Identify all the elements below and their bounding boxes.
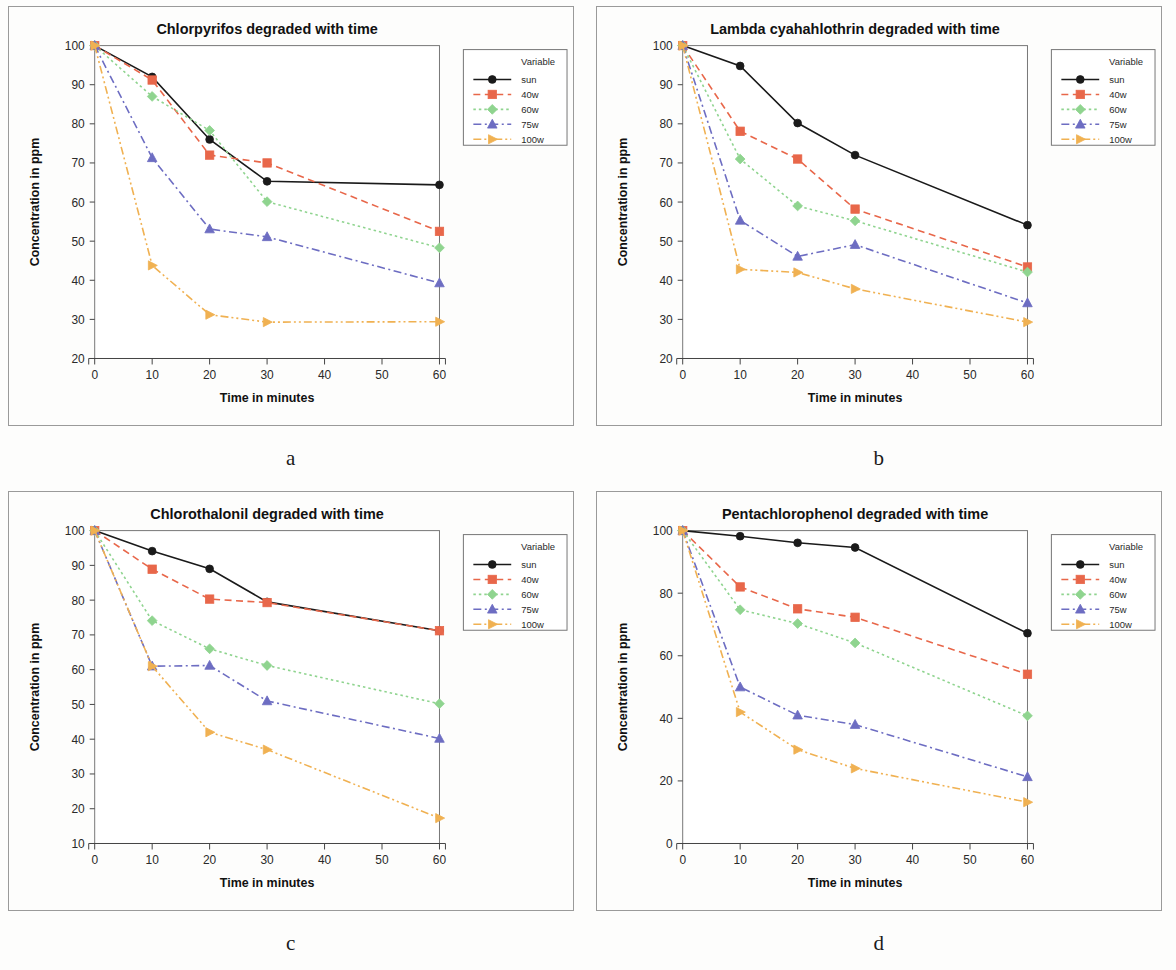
legend-label-60w: 60w: [1109, 104, 1127, 115]
data-point-sun: [851, 544, 859, 552]
legend-label-100w: 100w: [1109, 134, 1132, 145]
y-tick-label: 20: [659, 774, 673, 788]
data-point-40w: [205, 595, 213, 603]
legend-title: Variable: [521, 56, 555, 67]
x-tick-label: 30: [848, 853, 862, 867]
legend-label-sun: sun: [1109, 74, 1124, 85]
plot-area: [683, 531, 1028, 844]
x-tick-label: 60: [433, 368, 447, 382]
y-tick-label: 100: [653, 524, 673, 538]
y-tick-label: 100: [65, 39, 85, 53]
data-point-40w: [148, 76, 156, 84]
data-point-40w: [793, 155, 801, 163]
y-tick-label: 30: [659, 313, 673, 327]
data-point-40w: [736, 583, 744, 591]
legend-marker-sun: [1076, 561, 1084, 569]
y-tick-label: 80: [659, 117, 673, 131]
legend-label-100w: 100w: [1109, 619, 1132, 630]
y-tick-label: 50: [659, 235, 673, 249]
legend-label-60w: 60w: [521, 104, 539, 115]
legend-marker-40w: [1076, 90, 1084, 98]
x-tick-label: 60: [1021, 853, 1035, 867]
legend-label-60w: 60w: [1109, 589, 1127, 600]
legend-label-40w: 40w: [1109, 574, 1127, 585]
y-tick-label: 70: [71, 156, 85, 170]
y-tick-label: 80: [659, 587, 673, 601]
figure-grid: Chlorpyrifos degraded with time203040506…: [0, 0, 1176, 970]
chart-title: Lambda cyahahlothrin degraded with time: [710, 21, 1000, 37]
x-tick-label: 50: [375, 853, 389, 867]
figure-panel-a: Chlorpyrifos degraded with time203040506…: [0, 0, 588, 485]
legend-label-100w: 100w: [521, 134, 544, 145]
legend-label-75w: 75w: [521, 604, 539, 615]
x-axis-title: Time in minutes: [808, 391, 903, 405]
legend-label-60w: 60w: [521, 589, 539, 600]
data-point-sun: [794, 119, 802, 127]
legend-label-75w: 75w: [521, 119, 539, 130]
legend-label-40w: 40w: [1109, 89, 1127, 100]
chart-panel-border-a: Chlorpyrifos degraded with time203040506…: [8, 6, 574, 426]
legend-label-40w: 40w: [521, 574, 539, 585]
chart-a: Chlorpyrifos degraded with time203040506…: [9, 7, 573, 425]
x-axis-title: Time in minutes: [220, 391, 315, 405]
x-tick-label: 40: [318, 853, 332, 867]
data-point-sun: [206, 136, 214, 144]
x-tick-label: 40: [318, 368, 332, 382]
chart-title: Chlorothalonil degraded with time: [150, 506, 383, 522]
x-tick-label: 30: [848, 368, 862, 382]
legend-title: Variable: [521, 541, 555, 552]
y-tick-label: 50: [71, 235, 85, 249]
data-point-40w: [263, 598, 271, 606]
legend-marker-40w: [1076, 575, 1084, 583]
data-point-sun: [851, 151, 859, 159]
panel-caption-c: c: [8, 911, 574, 954]
data-point-40w: [205, 151, 213, 159]
y-axis-title: Concentration in ppm: [616, 138, 630, 267]
data-point-sun: [736, 62, 744, 70]
chart-c: Chlorothalonil degraded with time1020304…: [9, 492, 573, 910]
legend-title: Variable: [1109, 56, 1143, 67]
x-axis-title: Time in minutes: [808, 876, 903, 890]
x-tick-label: 40: [906, 368, 920, 382]
figure-panel-b: Lambda cyahahlothrin degraded with time2…: [588, 0, 1176, 485]
chart-title: Chlorpyrifos degraded with time: [156, 21, 377, 37]
data-point-sun: [794, 539, 802, 547]
x-tick-label: 0: [91, 853, 98, 867]
figure-panel-c: Chlorothalonil degraded with time1020304…: [0, 485, 588, 970]
y-tick-label: 40: [659, 712, 673, 726]
y-tick-label: 20: [71, 352, 85, 366]
y-axis-title: Concentration in ppm: [28, 138, 42, 267]
x-tick-label: 20: [791, 853, 805, 867]
data-point-40w: [851, 205, 859, 213]
data-point-sun: [1024, 221, 1032, 229]
legend-label-sun: sun: [1109, 559, 1124, 570]
x-tick-label: 10: [146, 368, 160, 382]
x-tick-label: 60: [1021, 368, 1035, 382]
chart-panel-border-b: Lambda cyahahlothrin degraded with time2…: [596, 6, 1162, 426]
legend-label-75w: 75w: [1109, 119, 1127, 130]
y-tick-label: 50: [71, 698, 85, 712]
chart-title: Pentachlorophenol degraded with time: [722, 506, 988, 522]
y-tick-label: 100: [65, 524, 85, 538]
data-point-100w: [1024, 798, 1033, 807]
y-tick-label: 30: [71, 313, 85, 327]
data-point-sun: [436, 181, 444, 189]
data-point-40w: [793, 605, 801, 613]
panel-caption-d: d: [596, 911, 1162, 954]
y-tick-label: 80: [71, 594, 85, 608]
data-point-sun: [263, 177, 271, 185]
y-tick-label: 20: [659, 352, 673, 366]
legend-label-sun: sun: [521, 559, 536, 570]
panel-caption-a: a: [8, 426, 574, 469]
data-point-100w: [436, 814, 445, 823]
x-tick-label: 20: [791, 368, 805, 382]
data-point-40w: [263, 159, 271, 167]
chart-b: Lambda cyahahlothrin degraded with time2…: [597, 7, 1161, 425]
y-tick-label: 70: [659, 156, 673, 170]
plot-area: [95, 531, 440, 844]
x-tick-label: 50: [963, 853, 977, 867]
x-tick-label: 0: [679, 368, 686, 382]
x-tick-label: 50: [963, 368, 977, 382]
data-point-100w: [1024, 318, 1033, 327]
x-tick-label: 30: [260, 368, 274, 382]
